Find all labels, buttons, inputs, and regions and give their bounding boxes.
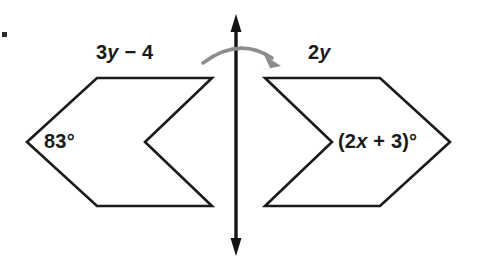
geometry-figure: 3y − 4 2y 83° (2x + 3)° — [0, 0, 477, 277]
label-left-angle: 83° — [44, 131, 75, 151]
label-right-top-coefficient: 2 — [308, 41, 319, 63]
label-right-angle-prefix: (2 — [338, 130, 356, 152]
label-right-angle-suffix: + 3)° — [368, 130, 418, 152]
label-right-top-side: 2y — [308, 42, 331, 62]
bullet-dot — [2, 32, 7, 37]
label-right-angle-variable: x — [356, 130, 367, 152]
label-left-top-side: 3y − 4 — [96, 42, 153, 62]
label-right-angle: (2x + 3)° — [338, 131, 417, 151]
label-left-top-variable: y — [107, 41, 118, 63]
label-left-top-coefficient: 3 — [96, 41, 107, 63]
label-left-top-operator: − 4 — [119, 41, 154, 63]
label-right-top-variable: y — [319, 41, 330, 63]
mirror-arrowhead-down-icon — [231, 238, 242, 256]
mirror-arrowhead-up-icon — [231, 14, 242, 32]
